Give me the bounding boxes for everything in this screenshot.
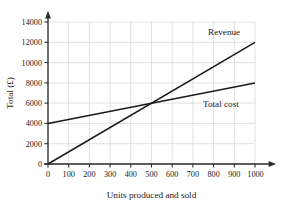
y-tick-label: 12000 [22, 38, 42, 47]
y-tick-label: 4000 [26, 119, 42, 128]
revenue-vs-total-cost-line-chart: 0 2000 4000 6000 8000 10000 12000 14000 … [0, 0, 285, 206]
x-tick-label: 200 [83, 170, 95, 179]
chart-container: 0 2000 4000 6000 8000 10000 12000 14000 … [0, 0, 285, 206]
x-tick-label: 800 [207, 170, 219, 179]
y-tick-label: 10000 [22, 59, 42, 68]
x-tick-label: 700 [187, 170, 199, 179]
x-tick-label: 600 [166, 170, 178, 179]
x-tick-label: 100 [63, 170, 75, 179]
y-tick-label: 6000 [26, 99, 42, 108]
x-axis-title: Units produced and sold [107, 190, 197, 200]
y-tick-label: 8000 [26, 79, 42, 88]
x-tick-label: 400 [125, 170, 137, 179]
x-tick-label: 500 [145, 170, 157, 179]
x-tick-label: 900 [228, 170, 240, 179]
y-tick-label: 0 [38, 160, 42, 169]
x-tick-label: 1000 [247, 170, 263, 179]
series-label-total-cost: Total cost [203, 99, 239, 109]
y-tick-label: 14000 [22, 18, 42, 27]
series-label-revenue: Revenue [208, 27, 240, 37]
x-tick-label: 0 [46, 170, 50, 179]
y-axis-title: Total (£) [5, 77, 15, 109]
x-tick-label: 300 [104, 170, 116, 179]
y-tick-label: 2000 [26, 140, 42, 149]
